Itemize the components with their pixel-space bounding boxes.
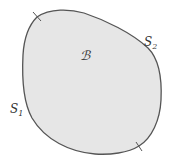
body-region bbox=[23, 10, 162, 154]
boundary-label-s2: S2 bbox=[144, 35, 157, 51]
body-label: ℬ bbox=[80, 48, 91, 63]
body-diagram: ℬ S2 S1 bbox=[0, 0, 169, 163]
boundary-label-s1: S1 bbox=[10, 102, 23, 118]
